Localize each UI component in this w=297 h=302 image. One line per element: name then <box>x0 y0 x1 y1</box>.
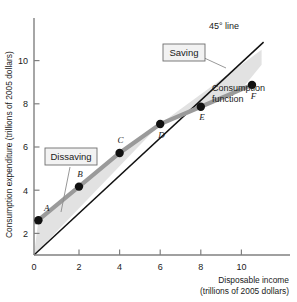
data-point-label-d: D <box>157 130 165 140</box>
x-axis-title: Disposable income <box>218 275 289 285</box>
data-point-label-a: A <box>43 203 50 213</box>
y-ticklabel-8: 8 <box>23 99 28 109</box>
consumption-function-label-line1: Consumption <box>212 83 265 93</box>
x-ticklabel-8: 8 <box>198 262 203 272</box>
data-point-c <box>115 149 123 157</box>
x-ticklabel-4: 4 <box>117 262 122 272</box>
x-ticklabel-0: 0 <box>31 262 36 272</box>
y-axis-title: Consumption expenditure (trillions of 20… <box>4 51 14 238</box>
y-ticklabel-2: 2 <box>23 229 28 239</box>
data-point-d <box>156 120 164 128</box>
dissaving-callout-label: Dissaving <box>50 151 91 162</box>
saving-callout-label: Saving <box>169 47 198 58</box>
y-ticklabel-4: 4 <box>23 186 28 196</box>
chart-canvas: 2 4 6 8 10 0 2 4 6 8 10 Consumption expe… <box>0 0 297 302</box>
dissaving-region <box>34 124 160 255</box>
saving-callout: Saving <box>163 44 226 68</box>
x-axis-title-units: (trillions of 2005 dollars) <box>200 286 289 296</box>
forty-five-degree-line-label: 45° line <box>209 21 239 31</box>
data-point-b <box>75 182 83 190</box>
x-ticklabel-2: 2 <box>76 262 81 272</box>
y-ticklabel-10: 10 <box>18 56 28 66</box>
x-axis-ticks: 0 2 4 6 8 10 <box>31 250 246 273</box>
data-point-e <box>197 103 205 111</box>
data-point-label-b: B <box>77 169 83 179</box>
data-point-label-e: E <box>198 112 205 122</box>
consumption-function-label-line2: function <box>212 94 244 104</box>
data-point-label-c: C <box>117 135 124 145</box>
y-ticklabel-6: 6 <box>23 142 28 152</box>
data-point-a <box>34 216 42 224</box>
y-axis-ticks: 2 4 6 8 10 <box>18 56 40 239</box>
consumption-function-chart: 2 4 6 8 10 0 2 4 6 8 10 Consumption expe… <box>0 0 297 302</box>
x-ticklabel-10: 10 <box>236 262 246 272</box>
x-ticklabel-6: 6 <box>158 262 163 272</box>
